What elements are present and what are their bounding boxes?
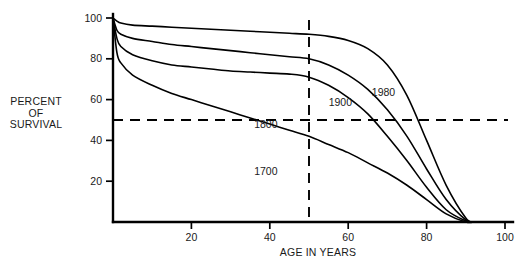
curve-label-1700: 1700: [254, 165, 278, 177]
x-tick-label: 80: [421, 231, 433, 243]
curve-label-1900: 1900: [329, 96, 353, 108]
curve-label-1980: 1980: [372, 86, 396, 98]
x-tick-label: 40: [264, 231, 276, 243]
y-tick-label: 60: [90, 93, 102, 105]
tick-labels-group: 2040608010020406080100: [84, 12, 513, 243]
x-tick-label: 20: [186, 231, 198, 243]
survival-curve-figure: PERCENT OF SURVIVAL AGE IN YEARS 2040608…: [0, 0, 521, 265]
x-tick-label: 100: [496, 231, 514, 243]
x-tick-label: 60: [342, 231, 354, 243]
y-tick-label: 20: [90, 175, 102, 187]
curve-label-1800: 1800: [254, 118, 278, 130]
y-tick-label: 100: [84, 12, 102, 24]
y-tick-label: 40: [90, 134, 102, 146]
chart-plot-area: 2040608010020406080100 1980190018001700: [0, 0, 521, 265]
curve-labels-group: 1980190018001700: [254, 86, 395, 178]
y-tick-label: 80: [90, 52, 102, 64]
